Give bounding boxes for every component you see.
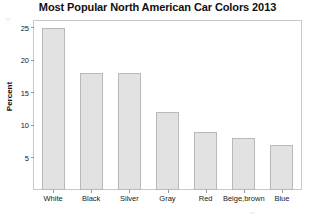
x-axis-tick-mark: [244, 190, 245, 193]
x-axis-tick-label: Beige,brown: [223, 194, 265, 203]
plot-area: 510152025: [34, 21, 301, 190]
y-axis-tick: 20: [0, 56, 34, 65]
bar: [42, 28, 65, 191]
scan-artifact: [6, 18, 10, 21]
x-axis-tick-mark: [168, 190, 169, 193]
y-axis-tick-mark: [31, 125, 34, 126]
bar: [156, 112, 179, 190]
y-axis-tick: 25: [0, 23, 34, 32]
y-axis-tick-mark: [31, 92, 34, 93]
x-axis-tick-label: Red: [199, 194, 213, 203]
x-axis-tick-label: Gray: [159, 194, 175, 203]
y-axis-tick-mark: [31, 60, 34, 61]
x-axis-tick-mark: [53, 190, 54, 193]
y-axis-tick-mark: [31, 27, 34, 28]
bar: [232, 138, 255, 190]
x-axis-tick-label: Blue: [274, 194, 289, 203]
x-axis-tick-label: Silver: [120, 194, 139, 203]
bar: [270, 145, 293, 191]
bar-chart-figure: Most Popular North American Car Colors 2…: [0, 0, 315, 222]
x-axis-tick-label: Black: [82, 194, 100, 203]
y-axis-tick: 5: [0, 153, 34, 162]
bar: [118, 73, 141, 190]
x-axis-tick-mark: [282, 190, 283, 193]
y-axis-tick-mark: [31, 157, 34, 158]
x-axis-tick-mark: [129, 190, 130, 193]
chart-title: Most Popular North American Car Colors 2…: [0, 1, 315, 13]
y-axis-tick: 10: [0, 121, 34, 130]
bar: [80, 73, 103, 190]
x-axis-tick-mark: [206, 190, 207, 193]
y-axis-tick: 15: [0, 88, 34, 97]
bar: [194, 132, 217, 191]
scan-artifact: [250, 212, 255, 214]
x-axis-tick-label: White: [43, 194, 62, 203]
x-axis-tick-mark: [91, 190, 92, 193]
